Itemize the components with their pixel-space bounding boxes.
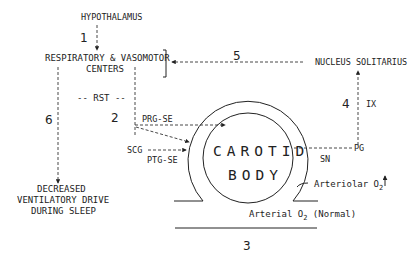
nucleus-solitarius-label: NUCLEUS SOLITARIUS <box>315 57 407 67</box>
carotid-body-pathway-diagram: HYPOTHALAMUS 1 RESPIRATORY & VASOMOTOR C… <box>0 0 417 259</box>
rst-label: -- RST -- <box>77 93 126 103</box>
outcome-label-line1: DECREASED <box>37 184 86 194</box>
centers-label-line2: CENTERS <box>86 64 124 74</box>
pathway-2-branch-arrow <box>136 127 189 142</box>
ix-nerve-label: IX <box>366 99 377 109</box>
pathway-4-number: 4 <box>342 97 350 111</box>
carotid-body-label-line1: CAROTID <box>213 143 309 159</box>
outcome-label-line3: DURING SLEEP <box>31 206 97 216</box>
prg-se-label: PRG-SE <box>142 114 173 124</box>
arterial-o2-label: Arterial O2 (Normal) <box>249 209 356 222</box>
pathway-1-number: 1 <box>80 31 88 45</box>
ptg-se-label: PTG-SE <box>147 155 178 165</box>
pathway-2-number: 2 <box>111 111 119 125</box>
arteriolar-o2-label: Arteriolar O2 <box>314 179 383 192</box>
hypothalamus-label: HYPOTHALAMUS <box>81 12 142 22</box>
pathway-3-number: 3 <box>243 239 251 253</box>
centers-label-line1: RESPIRATORY & VASOMOTOR <box>45 53 170 63</box>
pathway-5-number: 5 <box>233 49 241 63</box>
outcome-label-line2: VENTILATORY DRIVE <box>17 195 109 205</box>
pg-label: PG <box>354 143 364 153</box>
pathway-6-number: 6 <box>45 113 53 127</box>
sn-label: SN <box>320 154 330 164</box>
carotid-body-label-line2: BODY <box>228 167 283 183</box>
scg-label: SCG <box>127 145 142 155</box>
